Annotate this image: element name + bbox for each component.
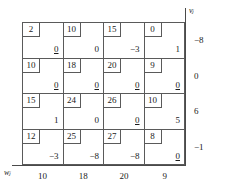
v-value: −8 [186, 22, 227, 58]
cell-value: 0 [54, 80, 59, 90]
cell-value: 5 [176, 115, 181, 125]
cost-box: 15 [23, 94, 40, 108]
cell-value: −3 [49, 151, 59, 161]
tableau-cell[interactable]: 9 0 [145, 59, 186, 95]
tableau-cell[interactable]: 26 0 [104, 94, 145, 130]
cost-box: 15 [104, 23, 121, 37]
w-dual-row: 10 18 20 9 [22, 166, 185, 186]
tableau-cell[interactable]: 15 −3 [104, 23, 145, 59]
cell-value: 0 [54, 44, 59, 54]
cost-box: 20 [104, 59, 121, 73]
cost-box: 10 [64, 23, 81, 37]
w-axis-label: wⱼ [4, 168, 10, 177]
cell-value: −3 [130, 44, 140, 54]
cost-box: 8 [145, 130, 162, 144]
tableau-cell[interactable]: 10 5 [145, 94, 186, 130]
cell-value: 0 [135, 80, 140, 90]
tableau-cell[interactable]: 8 0 [145, 130, 186, 166]
v-dual-column: −8 0 6 −1 [186, 22, 227, 165]
cost-box: 0 [145, 23, 162, 37]
cell-value: 0 [176, 151, 181, 161]
v-value: 6 [186, 94, 227, 130]
tableau-cell[interactable]: 18 0 [64, 59, 105, 95]
tableau-grid: 2 0 10 0 15 −3 0 1 10 0 18 0 20 0 9 [22, 22, 185, 165]
cell-value: 0 [95, 80, 100, 90]
w-value: 10 [22, 166, 63, 186]
cell-value: −8 [130, 151, 140, 161]
tableau-cell[interactable]: 2 0 [23, 23, 64, 59]
cost-box: 10 [23, 59, 40, 73]
w-value: 9 [144, 166, 185, 186]
cost-box: 24 [64, 94, 81, 108]
cell-value: 1 [176, 44, 181, 54]
w-value: 20 [104, 166, 145, 186]
cell-value: 0 [176, 80, 181, 90]
cost-box: 27 [104, 130, 121, 144]
tableau-cell[interactable]: 10 0 [64, 23, 105, 59]
tableau-cell[interactable]: 25 −8 [64, 130, 105, 166]
cost-box: 12 [23, 130, 40, 144]
transportation-tableau-figure: vⱼ wⱼ 2 0 10 0 15 −3 0 1 10 0 18 0 20 [0, 0, 227, 192]
tableau-cell[interactable]: 15 1 [23, 94, 64, 130]
tableau-cell[interactable]: 27 −8 [104, 130, 145, 166]
cost-box: 2 [23, 23, 40, 37]
w-value: 18 [63, 166, 104, 186]
cost-box: 9 [145, 59, 162, 73]
cell-value: 0 [95, 115, 100, 125]
cell-value: 0 [95, 44, 100, 54]
cell-value: 0 [135, 115, 140, 125]
cell-value: −8 [89, 151, 99, 161]
cost-box: 18 [64, 59, 81, 73]
tableau-cell[interactable]: 0 1 [145, 23, 186, 59]
cost-box: 10 [145, 94, 162, 108]
cost-box: 25 [64, 130, 81, 144]
tableau-cell[interactable]: 12 −3 [23, 130, 64, 166]
tableau-cell[interactable]: 24 0 [64, 94, 105, 130]
v-value: 0 [186, 58, 227, 94]
v-axis-label: vⱼ [189, 6, 193, 15]
v-value: −1 [186, 129, 227, 165]
tableau-cell[interactable]: 10 0 [23, 59, 64, 95]
cell-value: 1 [54, 115, 59, 125]
tableau-cell[interactable]: 20 0 [104, 59, 145, 95]
cost-box: 26 [104, 94, 121, 108]
